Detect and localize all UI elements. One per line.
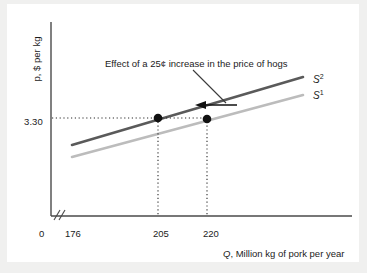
x-tick-label-origin: 0: [39, 228, 44, 239]
supply-curve-s2: [72, 77, 303, 145]
supply-curve-s1: [72, 95, 303, 157]
x-tick-label-176: 176: [65, 228, 81, 239]
supply-curve-chart: [7, 4, 359, 262]
data-point-s2: [154, 114, 163, 123]
annotation-label: Effect of a 25¢ increase in the price of…: [105, 58, 288, 69]
y-axis-label: p, $ per kg: [29, 20, 43, 98]
x-axis-label: Q, Million kg of pork per year: [223, 248, 344, 259]
curve-label-s2: S2: [313, 74, 324, 85]
data-point-s1: [203, 115, 212, 124]
figure-root: p, $ per kg 3.30 0 176 205 220 Q, Millio…: [0, 0, 367, 273]
y-axis-label-text: p, $ per kg: [31, 37, 42, 82]
x-tick-label-220: 220: [203, 228, 219, 239]
axis-break-icon: [54, 210, 65, 220]
plot-card: p, $ per kg 3.30 0 176 205 220 Q, Millio…: [7, 4, 359, 262]
annotation-leader-line: [193, 70, 226, 103]
x-tick-label-205: 205: [153, 228, 169, 239]
curve-label-s1: S1: [313, 90, 324, 101]
y-tick-label-330: 3.30: [24, 116, 43, 127]
